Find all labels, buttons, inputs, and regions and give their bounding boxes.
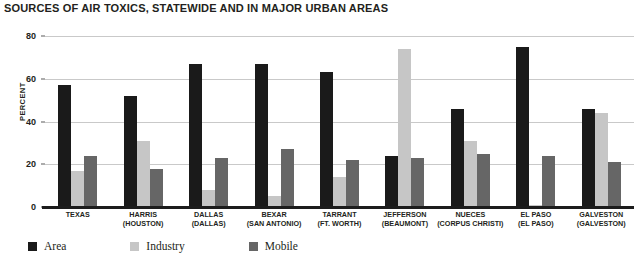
bar-industry	[595, 113, 608, 207]
x-label-main: EL PASO	[520, 210, 551, 219]
legend-swatch-industry	[130, 242, 139, 251]
bar-group	[189, 36, 228, 207]
bar-group	[124, 36, 163, 207]
legend-label: Mobile	[265, 240, 298, 252]
bar-industry	[464, 141, 477, 207]
bar-mobile	[215, 158, 228, 207]
x-label-sub: (BEAUMONT)	[382, 220, 428, 229]
x-axis-label: BEXAR(SAN ANTONIO)	[247, 211, 302, 228]
x-axis-label: DALLAS(DALLAS)	[192, 211, 226, 228]
x-label-main: TEXAS	[66, 210, 90, 219]
y-tick-label: 80	[14, 31, 36, 41]
x-axis-label: JEFFERSON(BEAUMONT)	[382, 211, 428, 228]
bar-mobile	[346, 160, 359, 207]
bar-industry	[398, 49, 411, 207]
x-label-sub: (FT. WORTH)	[318, 220, 362, 229]
bar-group	[582, 36, 621, 207]
x-label-main: JEFFERSON	[383, 210, 426, 219]
x-label-main: BEXAR	[261, 210, 286, 219]
bar-mobile	[150, 169, 163, 207]
bar-group	[451, 36, 490, 207]
bar-industry	[333, 177, 346, 207]
y-tick-label: 20	[14, 159, 36, 169]
legend-item-area[interactable]: Area	[28, 240, 66, 252]
bar-area	[320, 72, 333, 207]
legend-label: Area	[44, 240, 66, 252]
legend-label: Industry	[146, 240, 184, 252]
bar-group	[516, 36, 555, 207]
bar-area	[451, 109, 464, 207]
plot-area	[45, 36, 634, 207]
x-label-sub: (CORPUS CHRISTI)	[437, 220, 503, 229]
bar-group	[320, 36, 359, 207]
bar-mobile	[281, 149, 294, 207]
x-label-main: DALLAS	[194, 210, 223, 219]
x-label-sub: (SAN ANTONIO)	[247, 220, 302, 229]
air-toxics-bar-chart: SOURCES OF AIR TOXICS, STATEWIDE AND IN …	[0, 0, 644, 259]
x-axis-label: HARRIS(HOUSTON)	[123, 211, 164, 228]
x-label-sub: (DALLAS)	[192, 220, 226, 229]
bar-group	[385, 36, 424, 207]
x-axis-label: TARRANT(FT. WORTH)	[318, 211, 362, 228]
bar-area	[582, 109, 595, 207]
x-label-main: HARRIS	[129, 210, 157, 219]
y-tick-label: 40	[14, 117, 36, 127]
bar-mobile	[608, 162, 621, 207]
bar-area	[189, 64, 202, 207]
bar-mobile	[411, 158, 424, 207]
x-label-sub: (GALVESTON)	[577, 220, 626, 229]
x-axis-label: TEXAS	[66, 211, 90, 220]
x-axis-label: EL PASO(EL PASO)	[518, 211, 554, 228]
legend-item-industry[interactable]: Industry	[130, 240, 184, 252]
bar-group	[58, 36, 97, 207]
bar-mobile	[542, 156, 555, 207]
bar-area	[516, 47, 529, 207]
y-tick-label: 60	[14, 74, 36, 84]
y-tick-label: 0	[14, 202, 36, 212]
y-axis-label: PERCENT	[18, 82, 27, 121]
x-axis-line	[42, 206, 634, 209]
bar-industry	[137, 141, 150, 207]
x-label-sub: (EL PASO)	[518, 220, 554, 229]
bar-industry	[202, 190, 215, 207]
x-axis-label: NUECES(CORPUS CHRISTI)	[437, 211, 503, 228]
x-label-main: TARRANT	[322, 210, 356, 219]
bar-mobile	[84, 156, 97, 207]
bar-area	[124, 96, 137, 207]
legend-swatch-mobile	[249, 242, 258, 251]
bar-area	[385, 156, 398, 207]
chart-title: SOURCES OF AIR TOXICS, STATEWIDE AND IN …	[4, 2, 388, 14]
legend-item-mobile[interactable]: Mobile	[249, 240, 298, 252]
legend-swatch-area	[28, 242, 37, 251]
bar-industry	[71, 171, 84, 207]
x-label-main: NUECES	[455, 210, 485, 219]
bar-group	[255, 36, 294, 207]
bar-mobile	[477, 154, 490, 207]
x-label-sub: (HOUSTON)	[123, 220, 164, 229]
x-label-main: GALVESTON	[579, 210, 623, 219]
chart-legend: AreaIndustryMobile	[28, 240, 362, 252]
x-axis-label: GALVESTON(GALVESTON)	[577, 211, 626, 228]
bar-area	[58, 85, 71, 207]
bar-area	[255, 64, 268, 207]
